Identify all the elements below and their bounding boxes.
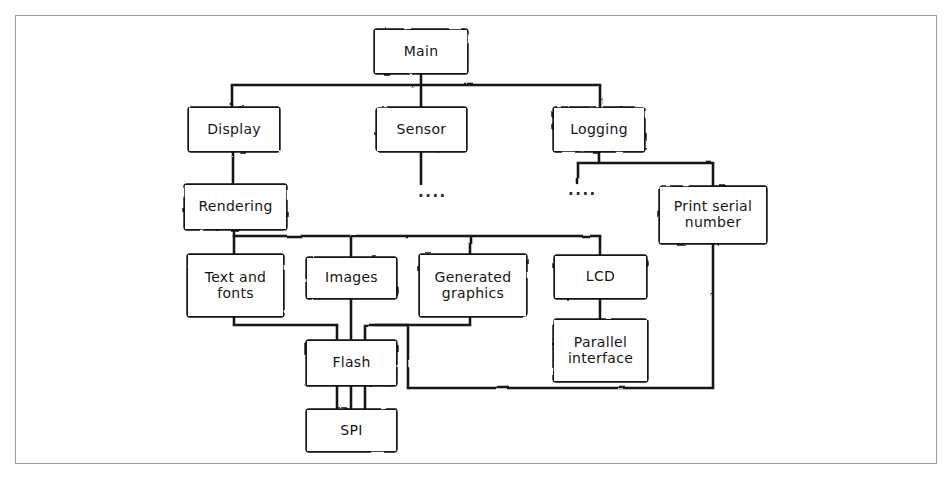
node-label-display: Display	[204, 122, 264, 138]
node-label-spi: SPI	[337, 423, 365, 439]
edge-logging-to-children	[578, 151, 713, 187]
node-label-rendering: Rendering	[195, 199, 275, 215]
node-images[interactable]: Images	[307, 258, 396, 298]
edge-flash-to-spi	[337, 385, 365, 410]
node-parallel[interactable]: Parallel interface	[554, 320, 647, 381]
node-rendering[interactable]: Rendering	[185, 185, 286, 229]
edge-main-to-children	[232, 73, 600, 108]
node-spi[interactable]: SPI	[307, 410, 396, 451]
node-label-images: Images	[322, 270, 381, 286]
node-label-print: Print serial number	[671, 199, 755, 230]
node-label-text: Text and fonts	[202, 270, 270, 301]
node-label-logging: Logging	[567, 122, 631, 138]
node-label-lcd: LCD	[583, 269, 618, 285]
ellipsis-logging-children: ....	[568, 183, 597, 198]
node-lcd[interactable]: LCD	[555, 256, 646, 298]
node-label-graphics: Generated graphics	[432, 270, 515, 301]
node-label-parallel: Parallel interface	[565, 335, 636, 366]
node-label-flash: Flash	[329, 355, 373, 371]
edge-rendering-to-children	[234, 229, 600, 258]
node-print[interactable]: Print serial number	[660, 187, 766, 243]
edge-text-to-flash	[234, 316, 337, 341]
node-main[interactable]: Main	[375, 30, 467, 73]
node-logging[interactable]: Logging	[554, 108, 644, 151]
edge-graphics-to-flash	[365, 316, 470, 341]
node-flash[interactable]: Flash	[307, 341, 396, 385]
node-label-sensor: Sensor	[394, 122, 450, 138]
node-text[interactable]: Text and fonts	[188, 255, 283, 316]
connector-layer	[0, 0, 950, 479]
node-sensor[interactable]: Sensor	[377, 108, 466, 151]
node-label-main: Main	[401, 44, 442, 60]
node-display[interactable]: Display	[189, 108, 279, 151]
ellipsis-sensor-children: ....	[418, 185, 447, 200]
diagram-canvas: MainDisplaySensorLoggingRenderingPrint s…	[0, 0, 950, 479]
node-graphics[interactable]: Generated graphics	[420, 255, 526, 316]
